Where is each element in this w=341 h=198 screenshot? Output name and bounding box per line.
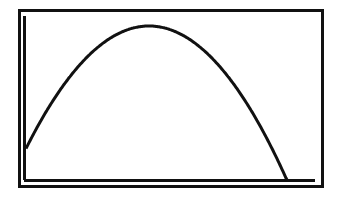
graph-plot <box>0 0 341 198</box>
parabola-curve <box>26 26 287 180</box>
graph-screen: line parabola <box>0 0 341 198</box>
